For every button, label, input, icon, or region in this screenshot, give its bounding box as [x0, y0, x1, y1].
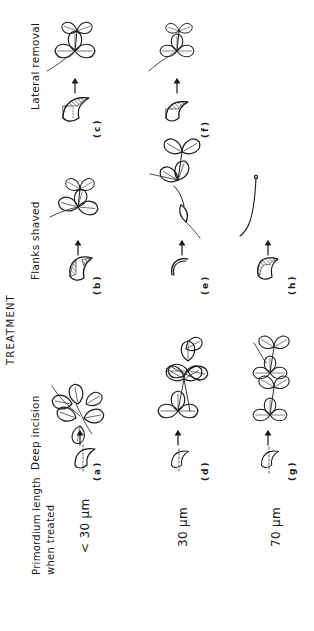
panel-c-primordium-icon [63, 98, 89, 121]
panel-e-leaf-icon [150, 136, 203, 238]
panel-e-arrow-icon [180, 241, 185, 255]
panel-d-arrow-icon [176, 431, 181, 445]
panel-h-primordium-icon [258, 258, 278, 279]
panel-e-primordium-icon [172, 259, 188, 275]
panel-b-arrow-icon [76, 241, 81, 255]
panel-c-leaf-icon [47, 20, 95, 71]
illustration-layer [0, 0, 314, 631]
panel-a-primordium-icon [75, 445, 95, 471]
panel-g-primordium-icon [262, 447, 279, 473]
panel-c-arrow-icon [73, 79, 78, 93]
figure-stage: Primordium length when treated TREATMENT… [0, 0, 314, 631]
panel-h-stem-icon [240, 175, 258, 236]
panel-f-leaf-icon [149, 22, 194, 71]
panel-b-primordium-icon [70, 257, 92, 280]
panel-d-leaf-icon [158, 335, 209, 418]
panel-f-arrow-icon [175, 79, 180, 93]
panel-g-arrow-icon [266, 431, 271, 445]
panel-g-leaf-icon [253, 334, 292, 421]
panel-b-leaf-icon [50, 176, 99, 217]
panel-d-primordium-icon [172, 447, 189, 471]
panel-h-arrow-icon [266, 241, 271, 255]
panel-f-primordium-icon [166, 102, 188, 121]
